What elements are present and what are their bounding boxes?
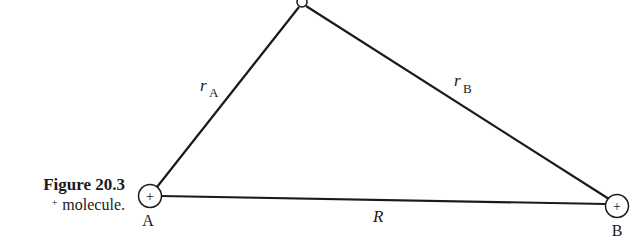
r-b-symbol: r bbox=[454, 71, 461, 90]
edge-r-a bbox=[157, 7, 299, 187]
label-a: A bbox=[142, 212, 154, 229]
r-a-symbol: r bbox=[200, 76, 207, 95]
nucleus-a: + A bbox=[139, 185, 162, 230]
label-r-a: r A bbox=[200, 76, 219, 100]
charge-b: + bbox=[613, 199, 621, 214]
h2-ion-diagram: + A + B r A r B R bbox=[0, 0, 635, 246]
r-b-subscript: B bbox=[463, 81, 472, 96]
electron-node bbox=[297, 0, 307, 7]
label-r-b: r B bbox=[454, 71, 472, 96]
label-r: R bbox=[372, 207, 384, 226]
charge-a: + bbox=[146, 189, 154, 204]
edge-r bbox=[161, 196, 606, 204]
nucleus-b: + B bbox=[606, 195, 629, 240]
edge-r-b bbox=[306, 6, 609, 199]
label-b: B bbox=[612, 222, 623, 239]
r-a-subscript: A bbox=[209, 85, 219, 100]
